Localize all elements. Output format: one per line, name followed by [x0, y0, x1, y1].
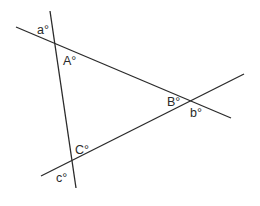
- line-through-a-and-b: [16, 27, 231, 118]
- line-through-c-and-b: [41, 74, 244, 176]
- exterior-angle-c-label: c°: [56, 171, 67, 185]
- interior-angle-C-label: C°: [75, 143, 89, 157]
- line-through-a-and-c: [50, 11, 76, 188]
- interior-angle-A-label: A°: [63, 54, 76, 68]
- interior-angle-B-label: B°: [167, 95, 180, 109]
- triangle-angle-diagram: a° A° B° b° C° c°: [0, 0, 260, 206]
- exterior-angle-b-label: b°: [190, 106, 202, 120]
- exterior-angle-a-label: a°: [37, 23, 49, 37]
